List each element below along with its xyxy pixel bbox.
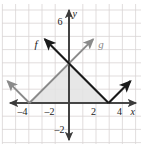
coordinate-plane-graph: –4 –2 2 4 6 –2 x y f g — [0, 0, 143, 146]
y-tick-label-6: 6 — [58, 16, 63, 27]
graph-svg: –4 –2 2 4 6 –2 x y f g — [0, 0, 143, 146]
y-axis-label: y — [72, 8, 78, 19]
x-tick-label--4: –4 — [17, 106, 28, 117]
x-axis-label: x — [130, 106, 136, 117]
x-tick-label-2: 2 — [91, 106, 96, 117]
y-tick-label--2: –2 — [54, 124, 65, 135]
curve-label-g: g — [98, 38, 104, 50]
x-tick-label--2: –2 — [44, 106, 55, 117]
x-tick-label-4: 4 — [117, 106, 122, 117]
